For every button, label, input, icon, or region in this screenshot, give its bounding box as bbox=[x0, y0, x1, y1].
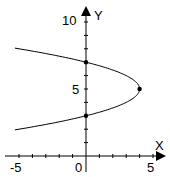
y-tick-5: 5 bbox=[72, 82, 79, 97]
x-axis-label: X bbox=[155, 138, 164, 153]
point-marker bbox=[84, 60, 88, 64]
y-axis-arrow-icon bbox=[81, 6, 91, 16]
y-axis-label: Y bbox=[94, 8, 103, 23]
y-tick-10: 10 bbox=[62, 13, 76, 28]
x-tick-5: 5 bbox=[147, 160, 154, 175]
x-tick-neg5: -5 bbox=[10, 160, 22, 175]
point-marker bbox=[84, 114, 88, 118]
x-tick-0: 0 bbox=[75, 160, 82, 175]
parabola-chart: Y X 10 5 -5 0 5 bbox=[0, 0, 170, 177]
marked-points bbox=[84, 60, 142, 118]
point-marker bbox=[137, 87, 141, 91]
